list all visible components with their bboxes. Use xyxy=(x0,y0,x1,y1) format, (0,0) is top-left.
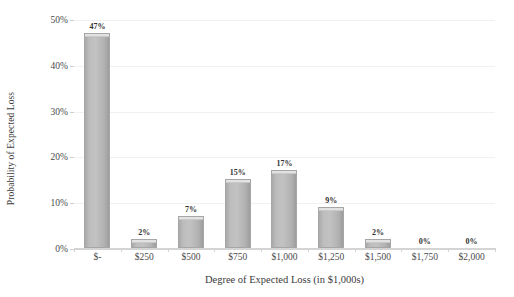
bar[interactable] xyxy=(365,239,391,248)
x-axis-title: Degree of Expected Loss (in $1,000s) xyxy=(74,274,495,285)
bar-top-bevel xyxy=(366,240,390,243)
bar-slot: 17% xyxy=(261,20,308,248)
x-tick-mark xyxy=(74,248,75,252)
x-tick-mark xyxy=(214,248,215,252)
x-tick-label: $- xyxy=(93,252,101,262)
bar-value-label: 47% xyxy=(89,22,105,31)
bar-value-label: 2% xyxy=(138,228,150,237)
x-tick-mark xyxy=(448,248,449,252)
bar-slot: 2% xyxy=(355,20,402,248)
bar-value-label: 0% xyxy=(466,237,478,246)
bar-value-label: 2% xyxy=(372,228,384,237)
x-tick-mark xyxy=(495,248,496,252)
x-tick-label: $1,250 xyxy=(318,252,344,262)
y-axis-title: Probability of Expected Loss xyxy=(0,0,22,297)
x-tick-label: $1,500 xyxy=(365,252,391,262)
y-tick-label: 40% xyxy=(51,61,68,71)
bar-slot: 7% xyxy=(168,20,215,248)
bar-slot: 47% xyxy=(74,20,121,248)
y-tick-label: 0% xyxy=(55,244,68,254)
x-tick-label: $1,750 xyxy=(412,252,438,262)
gridline xyxy=(74,249,495,250)
y-tick-label: 10% xyxy=(51,198,68,208)
bar[interactable] xyxy=(84,33,110,248)
x-tick-label: $500 xyxy=(181,252,200,262)
bar-top-bevel xyxy=(226,180,250,183)
x-tick-mark xyxy=(308,248,309,252)
y-tick-label: 30% xyxy=(51,107,68,117)
bars-group: 47%2%7%15%17%9%2%0%0% xyxy=(74,20,495,248)
x-tick-label: $2,000 xyxy=(459,252,485,262)
x-tick-label: $1,000 xyxy=(271,252,297,262)
bar-chart: Probability of Expected Loss 0%10%20%30%… xyxy=(0,0,514,297)
bar-top-bevel xyxy=(179,217,203,220)
bar[interactable] xyxy=(131,239,157,248)
bar-slot: 2% xyxy=(121,20,168,248)
bar[interactable] xyxy=(178,216,204,248)
x-axis-line xyxy=(74,248,495,249)
bar-value-label: 7% xyxy=(185,205,197,214)
x-tick-mark xyxy=(355,248,356,252)
bar[interactable] xyxy=(271,170,297,248)
bar-top-bevel xyxy=(319,208,343,211)
bar-slot: 0% xyxy=(448,20,495,248)
bar-value-label: 17% xyxy=(276,159,292,168)
bar-slot: 9% xyxy=(308,20,355,248)
bar-value-label: 15% xyxy=(230,168,246,177)
bar-value-label: 0% xyxy=(419,237,431,246)
x-tick-label: $250 xyxy=(135,252,154,262)
bar-top-bevel xyxy=(85,34,109,37)
x-tick-mark xyxy=(261,248,262,252)
bar-top-bevel xyxy=(132,240,156,243)
x-tick-label: $750 xyxy=(228,252,247,262)
x-axis-ticks: $-$250$500$750$1,000$1,250$1,500$1,750$2… xyxy=(74,252,495,268)
x-tick-mark xyxy=(401,248,402,252)
x-tick-mark xyxy=(168,248,169,252)
y-tick-label: 20% xyxy=(51,152,68,162)
bar-slot: 15% xyxy=(214,20,261,248)
bar-value-label: 9% xyxy=(325,196,337,205)
bar[interactable] xyxy=(225,179,251,248)
bar-top-bevel xyxy=(272,171,296,174)
bar-slot: 0% xyxy=(401,20,448,248)
y-tick-label: 50% xyxy=(51,15,68,25)
x-tick-mark xyxy=(121,248,122,252)
bar[interactable] xyxy=(318,207,344,248)
